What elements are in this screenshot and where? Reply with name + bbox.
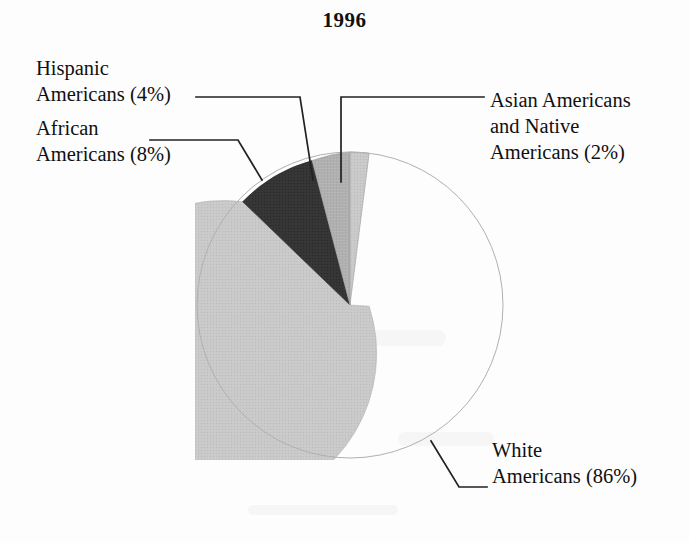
pie-label-hispanic-americans: Hispanic Americans (4%) [36, 55, 171, 107]
pie-chart-figure: 1996 [0, 0, 689, 543]
pie-label-line: White [492, 437, 637, 463]
pie-label-asian-native-americans: Asian Americans and Native Americans (2%… [490, 87, 631, 165]
chart-title: 1996 [0, 8, 689, 33]
pie-label-white-americans: White Americans (86%) [492, 437, 637, 489]
pie-label-line: Hispanic [36, 55, 171, 81]
pie-slice-asian-native-americans [350, 152, 369, 305]
pie-svg [195, 150, 505, 460]
pie-label-african-americans: African Americans (8%) [36, 115, 171, 167]
pie-label-line: and Native [490, 113, 631, 139]
pie-label-line: African [36, 115, 171, 141]
pie-label-line: Asian Americans [490, 87, 631, 113]
pie-label-line: Americans (86%) [492, 463, 637, 489]
pie-label-line: Americans (8%) [36, 141, 171, 167]
pie-label-line: Americans (2%) [490, 139, 631, 165]
pie-label-line: Americans (4%) [36, 81, 171, 107]
pie-graphic [195, 150, 505, 460]
scan-blemish [248, 505, 398, 515]
